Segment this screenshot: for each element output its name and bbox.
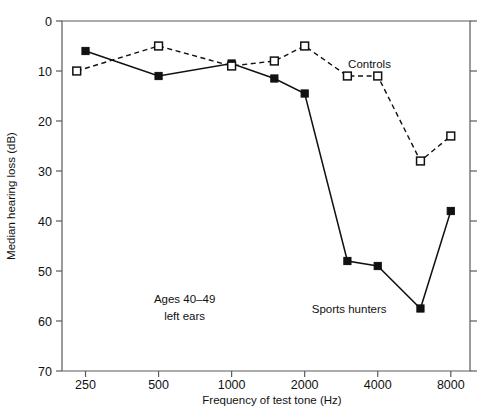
data-point-marker [73, 67, 81, 75]
data-point-marker [228, 62, 236, 70]
x-tick-label: 500 [148, 378, 169, 392]
y-tick-label: 0 [45, 15, 52, 29]
chart-background [0, 0, 485, 414]
data-point-marker [270, 57, 278, 65]
group-note-line1: Ages 40–49 [154, 293, 215, 305]
x-tick-label: 2000 [291, 378, 319, 392]
y-tick-label: 70 [38, 365, 52, 379]
data-point-marker [374, 262, 381, 269]
y-tick-label: 20 [38, 115, 52, 129]
x-tick-label: 4000 [364, 378, 392, 392]
data-point-marker [155, 42, 163, 50]
data-point-marker [417, 305, 424, 312]
y-tick-label: 40 [38, 215, 52, 229]
x-tick-label: 250 [75, 378, 96, 392]
group-note-line2: left ears [164, 310, 205, 322]
x-tick-label: 8000 [437, 378, 465, 392]
y-tick-label: 30 [38, 165, 52, 179]
data-point-marker [301, 42, 309, 50]
y-tick-label: 60 [38, 315, 52, 329]
data-point-marker [447, 132, 455, 140]
data-point-marker [344, 257, 351, 264]
data-point-marker [271, 75, 278, 82]
x-axis-title: Frequency of test tone (Hz) [202, 394, 342, 406]
hearing-loss-line-chart: 010203040506070 2505001000200040008000 C… [0, 0, 485, 414]
y-tick-label: 50 [38, 265, 52, 279]
data-point-marker [374, 72, 382, 80]
data-point-marker [301, 90, 308, 97]
data-point-marker [417, 157, 425, 165]
data-point-marker [155, 72, 162, 79]
y-axis-title: Median hearing loss (dB) [5, 132, 17, 260]
x-tick-label: 1000 [218, 378, 246, 392]
data-point-marker [82, 47, 89, 54]
data-point-marker [447, 207, 454, 214]
data-point-marker [344, 72, 352, 80]
y-tick-label: 10 [38, 65, 52, 79]
sports-hunters-label: Sports hunters [312, 303, 387, 315]
controls-label: Controls [348, 58, 391, 70]
chart-figure: 010203040506070 2505001000200040008000 C… [0, 0, 485, 414]
